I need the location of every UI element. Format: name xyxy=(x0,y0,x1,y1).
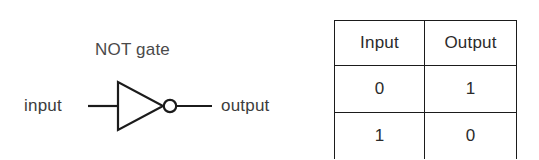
cell-output-value: 0 xyxy=(425,113,517,160)
truth-table: Input Output 0 1 1 0 xyxy=(334,20,517,159)
truth-table-body: 0 1 1 0 xyxy=(335,66,517,160)
inversion-bubble-icon xyxy=(164,100,176,112)
table-row: 1 0 xyxy=(335,113,517,160)
cell-output-value: 1 xyxy=(425,66,517,113)
column-header-output: Output xyxy=(425,21,517,66)
truth-table-header: Input Output xyxy=(335,21,517,66)
not-gate-diagram: NOT gate input output xyxy=(0,0,300,159)
not-gate-symbol xyxy=(0,0,300,159)
table-header-row: Input Output xyxy=(335,21,517,66)
column-header-input: Input xyxy=(335,21,425,66)
cell-input-value: 1 xyxy=(335,113,425,160)
gate-triangle-icon xyxy=(118,82,163,130)
cell-input-value: 0 xyxy=(335,66,425,113)
figure-root: NOT gate input output Input Output xyxy=(0,0,539,159)
table-row: 0 1 xyxy=(335,66,517,113)
truth-table-panel: Input Output 0 1 1 0 xyxy=(334,20,516,156)
